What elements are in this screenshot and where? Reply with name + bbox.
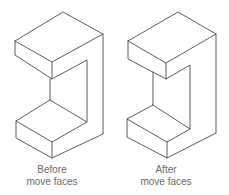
before-caption-line1: Before [7,164,97,176]
after-top-block-underside [166,65,190,129]
after-shape [127,12,216,158]
after-caption-line2: move faces [121,176,211,188]
before-top-block-front [15,41,52,79]
before-top-face [15,12,103,62]
after-caption-line1: After [121,164,211,176]
before-shape [15,12,103,158]
after-bottom-top-face [127,105,190,142]
before-bottom-block-front [16,121,52,158]
after-caption: After move faces [121,164,211,188]
after-bottom-right-edge [167,133,216,158]
before-bottom-top-face [16,100,87,142]
before-top-block-underside [52,60,87,122]
before-caption: Before move faces [7,164,97,188]
after-top-face [128,12,216,63]
before-caption-line2: move faces [7,176,97,188]
